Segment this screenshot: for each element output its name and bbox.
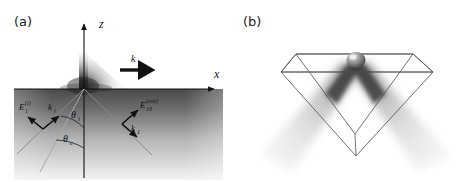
kx-label-subscript: x — [137, 59, 142, 67]
output-field-superscript: (out) — [146, 98, 158, 105]
theta-c-label: θ — [63, 133, 68, 144]
incident-field-superscript: (i) — [25, 100, 31, 107]
panel-a: z x k x — [0, 0, 237, 182]
panel-b: (b) — [237, 0, 475, 182]
x-axis-label: x — [213, 67, 220, 81]
theta-i-label: θ — [71, 109, 76, 120]
incident-field-label: E — [18, 102, 25, 112]
z-axis-label: z — [98, 17, 104, 31]
kx-label: k — [131, 53, 136, 64]
reflected-k-subscript: 1 — [137, 129, 140, 135]
figure-container: z x k x — [0, 0, 475, 182]
evanescent-field — [60, 48, 124, 95]
bead — [347, 52, 366, 68]
panel-a-label: (a) — [14, 14, 32, 29]
output-field-subscript: 10 — [146, 106, 152, 112]
theta-i-subscript: i — [78, 115, 80, 123]
panel-b-label: (b) — [243, 14, 261, 29]
panel-a-graphic: z x k x — [0, 0, 237, 182]
incident-field-subscript: 1 — [25, 108, 28, 114]
output-field-label: E — [139, 100, 146, 110]
substrate-region — [14, 89, 223, 180]
panel-b-graphic — [237, 0, 475, 182]
beam-core — [325, 62, 386, 104]
